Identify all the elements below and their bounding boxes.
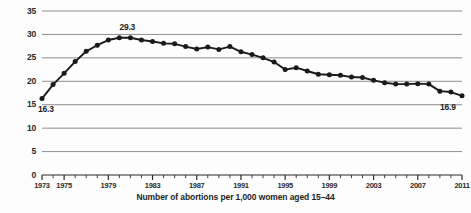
x-axis-tick-label: 2003	[354, 181, 394, 190]
data-markers: 1973: 16.31974: 19.31975: 21.71976: 24.2…	[40, 35, 465, 101]
data-point-marker: 1983: 28.5	[150, 39, 155, 44]
data-point-marker: 1999: 21.4	[327, 72, 332, 77]
data-point-marker: 2006: 19.4	[404, 82, 409, 87]
gridlines	[42, 11, 462, 152]
data-point-marker: 1988: 27.3	[205, 45, 210, 50]
data-point-marker: 2010: 17.7	[448, 90, 453, 95]
data-point-marker: 1990: 27.4	[227, 44, 232, 49]
y-axis-tick-label: 15	[14, 99, 36, 109]
data-point-marker: 1973: 16.3	[40, 96, 45, 101]
data-point-marker: 2011: 16.9	[460, 93, 465, 98]
data-point-marker: 2005: 19.4	[393, 82, 398, 87]
data-point-marker: 1976: 24.2	[73, 59, 78, 64]
x-axis-tick-label: 1987	[177, 181, 217, 190]
data-point-marker: 2003: 20.2	[371, 78, 376, 83]
data-point-marker: 2009: 17.9	[437, 89, 442, 94]
y-axis-tick-label: 20	[14, 76, 36, 86]
data-point-marker: 1997: 22.2	[305, 68, 310, 73]
data-point-marker: 1992: 25.7	[250, 52, 255, 57]
start-value-label: 16.3	[38, 104, 54, 114]
x-axis-tick-label: 1999	[309, 181, 349, 190]
x-axis-tick-label: 1975	[44, 181, 84, 190]
y-axis-tick-label: 35	[14, 6, 36, 16]
data-point-marker: 2002: 20.8	[360, 75, 365, 80]
data-point-marker: 1986: 27.4	[183, 44, 188, 49]
y-axis-tick-label: 30	[14, 29, 36, 39]
data-point-marker: 2001: 20.9	[349, 75, 354, 80]
x-axis-tick-label: 1991	[221, 181, 261, 190]
data-point-marker: 1991: 26.3	[238, 49, 243, 54]
data-point-marker: 2008: 19.4	[426, 82, 431, 87]
data-point-marker: 1980: 29.3	[117, 35, 122, 40]
data-point-marker: 1979: 28.8	[106, 38, 111, 43]
data-point-marker: 1981: 29.3	[128, 35, 133, 40]
data-line	[42, 38, 462, 99]
data-point-marker: 1978: 27.7	[95, 43, 100, 48]
data-point-marker: 1998: 21.5	[316, 72, 321, 77]
y-axis-tick-label: 5	[14, 146, 36, 156]
x-axis-tick-label: 2007	[398, 181, 438, 190]
data-point-marker: 1984: 28.1	[161, 41, 166, 46]
data-point-marker: 1995: 22.5	[283, 67, 288, 72]
data-point-marker: 1989: 26.8	[216, 47, 221, 52]
x-axis-tick-label: 1995	[265, 181, 305, 190]
data-point-marker: 1994: 24.1	[272, 60, 277, 65]
data-point-marker: 1982: 28.8	[139, 38, 144, 43]
data-point-marker: 1993: 25	[261, 55, 266, 60]
x-axis-tick-label: 1983	[133, 181, 173, 190]
y-axis-tick-label: 10	[14, 123, 36, 133]
data-point-marker: 2007: 19.5	[415, 81, 420, 86]
data-point-marker: 1996: 22.9	[294, 65, 299, 70]
y-axis-tick-label: 0	[14, 170, 36, 180]
data-point-marker: 2004: 19.7	[382, 80, 387, 85]
data-point-marker: 1985: 28	[172, 41, 177, 46]
series-line-abortion-rate	[42, 38, 462, 99]
data-point-marker: 2000: 21.3	[338, 73, 343, 78]
abortion-rate-line-chart: 1973: 16.31974: 19.31975: 21.71976: 24.2…	[0, 0, 471, 213]
data-point-marker: 1975: 21.7	[62, 71, 67, 76]
chart-caption: Number of abortions per 1,000 women aged…	[0, 192, 471, 202]
y-axis-tick-label: 25	[14, 52, 36, 62]
peak-value-label: 29.3	[119, 22, 135, 32]
x-axis-tick-label: 1979	[88, 181, 128, 190]
x-axis-ticks	[42, 175, 462, 180]
end-value-label: 16.9	[440, 102, 456, 112]
x-axis-tick-label: 2011	[442, 181, 471, 190]
data-point-marker: 1977: 26.4	[84, 49, 89, 54]
data-point-marker: 1974: 19.3	[51, 82, 56, 87]
data-point-marker: 1987: 26.9	[194, 46, 199, 51]
